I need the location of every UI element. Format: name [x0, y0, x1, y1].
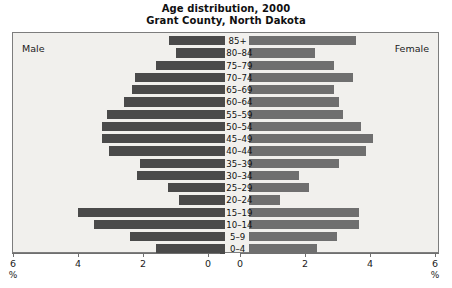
female-bar: [249, 159, 339, 168]
age-band-row: 80–84: [13, 47, 438, 59]
age-band-row: 60–64: [13, 96, 438, 108]
female-bar: [249, 220, 359, 229]
female-bar: [249, 73, 353, 82]
chart-subtitle: Grant County, North Dakota: [0, 15, 452, 27]
axis-tick-label-right: 0: [237, 258, 243, 269]
female-bar: [249, 146, 366, 155]
female-bar: [249, 232, 337, 241]
age-band-row: 50–54: [13, 121, 438, 133]
percent-label-left: %: [9, 270, 18, 280]
age-band-row: 35–39: [13, 158, 438, 170]
age-band-label: 35–39: [226, 158, 249, 170]
female-bar: [249, 85, 334, 94]
female-bar: [249, 122, 361, 131]
age-band-row: 55–59: [13, 109, 438, 121]
x-axis-left: [12, 253, 220, 254]
age-band-label: 60–64: [226, 96, 249, 108]
female-bar: [249, 134, 374, 143]
male-bar: [137, 171, 225, 180]
female-bar: [249, 48, 315, 57]
age-band-row: 5–9: [13, 231, 438, 243]
age-band-label: 45–49: [226, 133, 249, 145]
age-band-row: 70–74: [13, 72, 438, 84]
male-bar: [179, 195, 225, 204]
age-band-label: 70–74: [226, 72, 249, 84]
age-band-label: 40–44: [226, 145, 249, 157]
axis-tick: [143, 253, 144, 257]
age-band-row: 25–29: [13, 182, 438, 194]
male-bar: [109, 146, 225, 155]
age-band-label: 55–59: [226, 109, 249, 121]
axis-tick: [305, 253, 306, 257]
male-bar: [94, 220, 224, 229]
axis-tick-label-left: 0: [205, 258, 211, 269]
axis-tick-label-left: 6: [10, 258, 16, 269]
axis-tick-label-left: 2: [140, 258, 146, 269]
population-pyramid-chart: Age distribution, 2000 Grant County, Nor…: [0, 0, 452, 288]
age-band-label: 25–29: [226, 182, 249, 194]
age-band-row: 65–69: [13, 84, 438, 96]
female-bar: [249, 61, 334, 70]
male-bar: [169, 36, 224, 45]
age-band-label: 65–69: [226, 84, 249, 96]
axis-tick-label-right: 6: [432, 258, 438, 269]
age-band-label: 85+: [226, 35, 249, 47]
male-bar: [102, 134, 224, 143]
age-band-row: 15–19: [13, 207, 438, 219]
age-band-row: 40–44: [13, 145, 438, 157]
male-bar: [168, 183, 225, 192]
male-bar: [156, 61, 224, 70]
axis-tick: [208, 253, 209, 257]
age-band-label: 50–54: [226, 121, 249, 133]
axis-tick: [370, 253, 371, 257]
age-band-row: 85+: [13, 35, 438, 47]
axis-tick: [435, 253, 436, 257]
age-band-label: 20–24: [226, 194, 249, 206]
axis-tick-label-right: 4: [367, 258, 373, 269]
age-band-label: 75–79: [226, 60, 249, 72]
female-bar: [249, 110, 344, 119]
age-band-label: 5–9: [226, 231, 249, 243]
age-band-row: 20–24: [13, 194, 438, 206]
age-band-label: 80–84: [226, 47, 249, 59]
age-band-row: 10–14: [13, 219, 438, 231]
male-bar: [102, 122, 224, 131]
male-bar: [130, 232, 224, 241]
plot-area: Male Female 85+80–8475–7970–7465–6960–64…: [12, 32, 439, 253]
age-band-label: 30–34: [226, 170, 249, 182]
age-band-row: 75–79: [13, 60, 438, 72]
male-bar: [135, 73, 225, 82]
female-bar: [249, 97, 339, 106]
male-bar: [132, 85, 225, 94]
age-band-label: 15–19: [226, 207, 249, 219]
male-bar: [176, 48, 225, 57]
female-bar: [249, 195, 281, 204]
age-band-row: 45–49: [13, 133, 438, 145]
male-bar: [107, 110, 224, 119]
female-bar: [249, 171, 299, 180]
female-bar: [249, 36, 356, 45]
age-band-label: 0–4: [226, 243, 249, 255]
chart-title: Age distribution, 2000: [0, 3, 452, 15]
x-axis-right: [240, 253, 439, 254]
male-bar: [78, 208, 225, 217]
axis-tick: [13, 253, 14, 257]
axis-tick: [78, 253, 79, 257]
female-bar: [249, 208, 359, 217]
male-bar: [124, 97, 225, 106]
chart-title-block: Age distribution, 2000 Grant County, Nor…: [0, 3, 452, 27]
female-bar: [249, 183, 309, 192]
male-bar: [140, 159, 225, 168]
age-band-label: 10–14: [226, 219, 249, 231]
percent-label-right: %: [431, 270, 440, 280]
age-band-row: 30–34: [13, 170, 438, 182]
axis-tick-label-right: 2: [302, 258, 308, 269]
axis-tick-label-left: 4: [75, 258, 81, 269]
bar-rows: 85+80–8475–7970–7465–6960–6455–5950–5445…: [13, 35, 438, 251]
